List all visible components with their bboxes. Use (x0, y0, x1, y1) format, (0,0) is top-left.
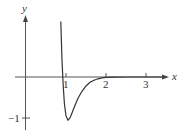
y-axis-arrow-icon (23, 15, 28, 22)
y-axis-label: y (21, 2, 27, 14)
y-axis: y (21, 2, 28, 130)
function-curve (61, 22, 162, 121)
x-axis-arrow-icon (162, 75, 169, 80)
y-tick-label: −1 (8, 112, 20, 124)
x-ticks: 123 (63, 73, 149, 90)
y-ticks: −1 (8, 112, 30, 124)
x-tick-label: 2 (103, 78, 109, 90)
x-axis-label: x (171, 70, 177, 82)
x-axis: x (15, 70, 177, 82)
function-plot: x y 123 −1 (0, 0, 183, 135)
x-tick-label: 3 (143, 78, 149, 90)
